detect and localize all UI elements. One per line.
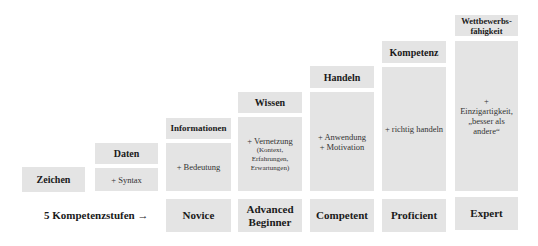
- level-expert-label: Expert: [470, 207, 502, 220]
- wettbewerb-body-line-1: + Einzigartigkeit,: [457, 96, 516, 116]
- step-informationen-body: + Bedeutung: [166, 143, 231, 191]
- step-handeln-body: + Anwendung + Motivation: [310, 92, 374, 191]
- step-wissen-body: + Vernetzung (Kontext, Erfahrungen, Erwa…: [238, 117, 302, 191]
- step-daten-header: Daten: [95, 143, 158, 164]
- step-kompetenz-body: + richtig handeln: [382, 67, 446, 191]
- wissen-body-main: + Vernetzung: [247, 136, 292, 146]
- step-kompetenz-header: Kompetenz: [382, 41, 446, 63]
- level-competent: Competent: [310, 199, 374, 232]
- wissen-body-detail-2: Erfahrungen,: [252, 155, 289, 164]
- step-wissen-header: Wissen: [238, 92, 302, 113]
- level-advanced-label-2: Beginner: [249, 216, 292, 229]
- handeln-body-line-1: + Anwendung: [318, 132, 366, 142]
- handeln-body-line-2: + Motivation: [320, 142, 365, 152]
- wissen-body-detail-3: Erwartungen): [251, 164, 289, 173]
- level-proficient-label: Proficient: [391, 209, 437, 222]
- level-proficient: Proficient: [382, 199, 446, 232]
- step-zeichen-header: Zeichen: [22, 167, 85, 192]
- step-handeln-header: Handeln: [310, 66, 374, 88]
- step-informationen-header: Informationen: [166, 118, 231, 139]
- level-expert: Expert: [455, 197, 518, 230]
- level-advanced-label-1: Advanced: [246, 203, 293, 216]
- step-wettbewerbsfaehigkeit-body: + Einzigartigkeit, „besser als andere“: [455, 41, 518, 191]
- competence-levels-label: 5 Kompetenzstufen →: [44, 209, 149, 221]
- wettbewerb-header-line-1: Wettbewerbs-: [461, 16, 512, 26]
- wettbewerb-header-line-2: fähigkeit: [470, 26, 502, 36]
- step-wettbewerbsfaehigkeit-header: Wettbewerbs- fähigkeit: [455, 15, 518, 36]
- wettbewerb-body-line-3: andere“: [473, 126, 499, 136]
- step-daten-body: + Syntax: [95, 168, 158, 191]
- wettbewerb-body-line-2: „besser als: [468, 116, 505, 126]
- level-novice: Novice: [166, 199, 231, 232]
- level-competent-label: Competent: [316, 209, 368, 222]
- level-novice-label: Novice: [183, 209, 215, 222]
- level-advanced-beginner: Advanced Beginner: [238, 199, 302, 232]
- wissen-body-detail-1: (Kontext,: [257, 146, 284, 155]
